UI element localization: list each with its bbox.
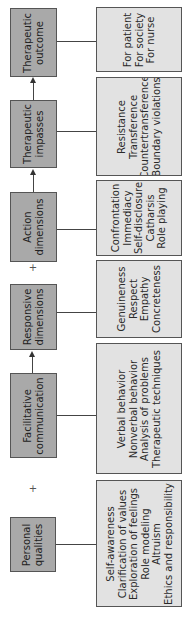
detail-list: Verbal behavior Nonverbal behavior Analy…: [116, 349, 162, 467]
detail-list: Resistance Transference Countertransfere…: [116, 77, 162, 176]
detail-item: Ethics and responsibility: [162, 483, 174, 605]
plus-symbol: +: [28, 484, 38, 494]
detail-item: Self-awareness: [105, 483, 117, 605]
detail-item: Confrontation: [110, 182, 122, 254]
detail-item: Exploration of feelings: [128, 483, 140, 605]
detail-item: Boundary violations: [151, 77, 163, 176]
detail-item: Role modeling: [139, 483, 151, 605]
stage-label-line: communication: [34, 377, 46, 454]
detail-box-impasses: Resistance Transference Countertransfere…: [96, 77, 182, 176]
detail-item: Concreteness: [151, 265, 163, 333]
stage-box-action-dimensions: Action dimensions: [10, 192, 57, 262]
stage-label: Therapeutic outcome: [22, 13, 46, 73]
detail-list: For patient For society For nurse: [122, 12, 157, 66]
connector-line: [57, 415, 96, 416]
detail-item: Catharsis: [145, 182, 157, 254]
connector-line: [57, 41, 96, 42]
detail-box-outcome: For patient For society For nurse: [96, 7, 182, 72]
arrow-up-icon: [29, 351, 35, 357]
arrow-up-icon: [30, 169, 36, 175]
stage-label-line: impasses: [34, 104, 46, 164]
detail-item: Analysis of problems: [139, 349, 151, 467]
stage-label-line: qualities: [33, 523, 45, 566]
stage-label-line: outcome: [34, 13, 46, 73]
stage-label-line: Facilitative: [22, 377, 34, 454]
arrow-up-icon: [30, 77, 36, 83]
connector-line: [57, 312, 96, 313]
stage-label: Action dimensions: [22, 198, 46, 255]
detail-item: Verbal behavior: [116, 349, 128, 467]
detail-item: Respect: [128, 265, 140, 333]
detail-item: Role playing: [156, 182, 168, 254]
connector-line: [57, 229, 96, 230]
detail-box-action: Confrontation Immediacy Self-disclosure …: [96, 180, 182, 256]
detail-box-responsive: Genuineness Respect Empathy Concreteness: [96, 260, 182, 338]
detail-item: Empathy: [139, 265, 151, 333]
detail-list: Genuineness Respect Empathy Concreteness: [116, 265, 162, 333]
stage-label-line: Responsive: [22, 288, 34, 345]
detail-list: Self-awareness Clarification of values E…: [105, 483, 174, 605]
detail-item: Transference: [128, 77, 140, 176]
detail-item: Genuineness: [116, 265, 128, 333]
stage-box-responsive-dimensions: Responsive dimensions: [10, 284, 57, 350]
stage-label-line: Therapeutic: [22, 13, 34, 73]
detail-item: Clarification of values: [116, 483, 128, 605]
arrow-shaft: [33, 80, 34, 100]
plus-symbol: +: [28, 263, 38, 273]
stage-box-therapeutic-outcome: Therapeutic outcome: [10, 8, 57, 77]
connector-line: [57, 131, 96, 132]
stage-label-line: dimensions: [34, 288, 46, 345]
detail-item: Nonverbal behavior: [128, 349, 140, 467]
stage-label-line: Therapeutic: [22, 104, 34, 164]
stage-label: Personal qualities: [21, 523, 45, 566]
connector-line: [56, 544, 96, 545]
detail-box-facilitative: Verbal behavior Nonverbal behavior Analy…: [96, 343, 182, 474]
stage-label: Therapeutic impasses: [22, 104, 46, 164]
stage-label: Facilitative communication: [22, 377, 46, 454]
detail-item: Immediacy: [122, 182, 134, 254]
detail-box-personal: Self-awareness Clarification of values E…: [96, 480, 182, 607]
stage-label-line: dimensions: [34, 198, 46, 255]
stage-label: Responsive dimensions: [22, 288, 46, 345]
stage-box-personal-qualities: Personal qualities: [10, 517, 56, 572]
detail-item: Altruism: [151, 483, 163, 605]
detail-item: For nurse: [145, 12, 157, 66]
detail-item: Countertransference: [139, 77, 151, 176]
detail-item: Resistance: [116, 77, 128, 176]
stage-box-facilitative-communication: Facilitative communication: [10, 373, 57, 458]
detail-item: Self-disclosure: [133, 182, 145, 254]
stage-box-therapeutic-impasses: Therapeutic impasses: [10, 100, 57, 168]
detail-list: Confrontation Immediacy Self-disclosure …: [110, 182, 168, 254]
stage-label-line: Action: [22, 198, 34, 255]
stage-label-line: Personal: [21, 523, 33, 566]
detail-item: For society: [133, 12, 145, 66]
detail-item: For patient: [122, 12, 134, 66]
arrow-shaft: [33, 172, 34, 192]
detail-item: Therapeutic techniques: [151, 349, 163, 467]
